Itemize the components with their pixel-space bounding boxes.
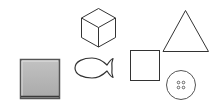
button-icon	[167, 71, 196, 100]
fish-icon	[75, 58, 113, 78]
square-icon	[131, 51, 160, 81]
cube-icon	[82, 9, 116, 48]
shapes-canvas	[0, 0, 222, 109]
triangle-icon	[163, 11, 209, 52]
gray-square-icon	[21, 60, 60, 99]
